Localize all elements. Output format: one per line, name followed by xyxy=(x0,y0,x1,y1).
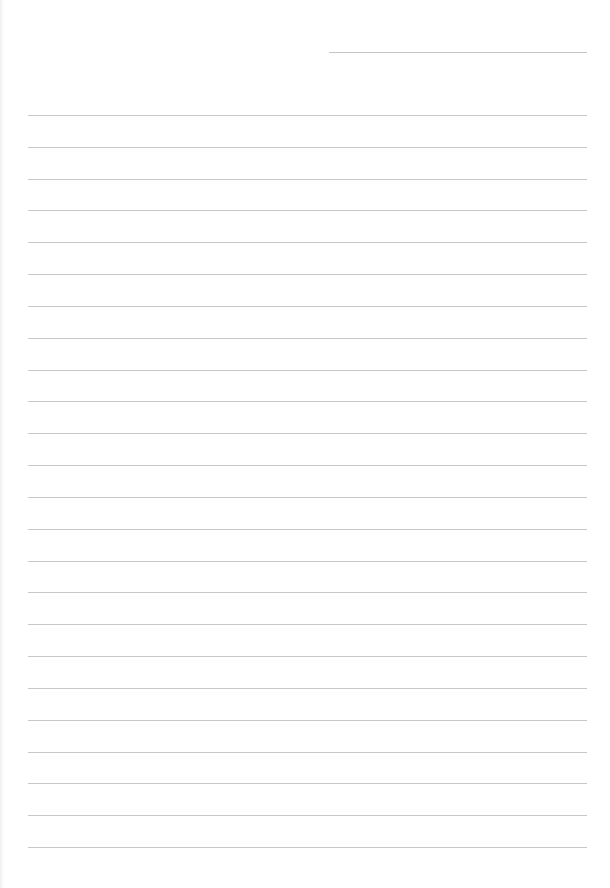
ruled-line xyxy=(28,370,587,371)
ruled-line xyxy=(28,592,587,593)
ruled-line xyxy=(28,179,587,180)
ruled-line xyxy=(28,497,587,498)
ruled-line xyxy=(28,242,587,243)
ruled-line xyxy=(28,401,587,402)
ruled-line xyxy=(28,624,587,625)
ruled-line xyxy=(28,529,587,530)
page-edge-shadow xyxy=(0,0,4,888)
ruled-line xyxy=(28,306,587,307)
lined-paper-page xyxy=(0,0,610,888)
ruled-line xyxy=(28,465,587,466)
header-date-line xyxy=(329,52,587,53)
ruled-line xyxy=(28,815,587,816)
ruled-line xyxy=(28,752,587,753)
ruled-line xyxy=(28,720,587,721)
ruled-line xyxy=(28,274,587,275)
ruled-line xyxy=(28,115,587,116)
ruled-line xyxy=(28,656,587,657)
ruled-line xyxy=(28,433,587,434)
ruled-line xyxy=(28,210,587,211)
ruled-line xyxy=(28,847,587,848)
ruled-line xyxy=(28,561,587,562)
ruled-line xyxy=(28,783,587,784)
ruled-line xyxy=(28,147,587,148)
ruled-line xyxy=(28,688,587,689)
ruled-line xyxy=(28,338,587,339)
